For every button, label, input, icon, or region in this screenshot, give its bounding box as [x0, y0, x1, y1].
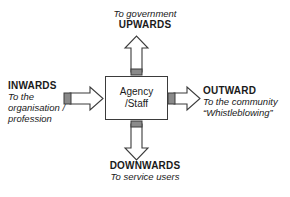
arrow-right-inward	[64, 87, 103, 110]
arrow-down-tail-segment	[131, 121, 142, 127]
agency-box-line-1: Agency	[120, 86, 153, 98]
agency-staff-box: Agency /Staff	[105, 76, 168, 120]
agency-box-line-2: /Staff	[125, 98, 148, 110]
arrow-up	[125, 36, 148, 75]
arrow-down	[125, 121, 148, 160]
diagram-canvas: Agency /Staff To government UPWARDS INWA…	[0, 0, 290, 197]
arrow-inward-tail-segment	[64, 93, 71, 104]
arrow-up-tail-segment	[131, 69, 142, 75]
arrow-right-outward	[168, 87, 200, 110]
arrow-outward-tail-segment	[168, 93, 175, 104]
